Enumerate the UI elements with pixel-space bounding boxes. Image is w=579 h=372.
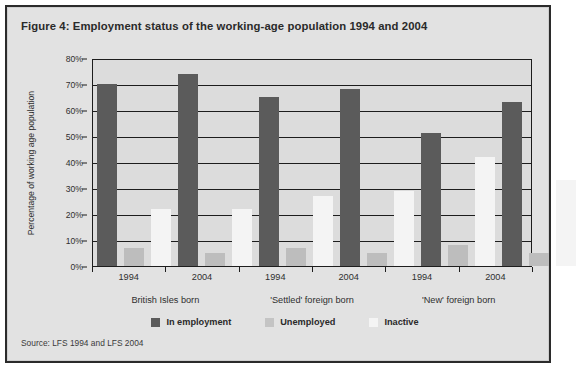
x-axis-year-label: 1994 [239,272,312,282]
y-axis-tick-mark [82,59,87,60]
year-label-pair: 19942004 [239,272,386,282]
y-axis-tick-mark [82,137,87,138]
x-axis-group-label: British Isles born [92,295,239,305]
bar-unemploy [448,245,468,266]
y-axis-tick-mark [82,215,87,216]
legend-item: Inactive [369,317,418,327]
y-axis-title: Percentage of working age population [26,59,40,267]
legend-item: In employment [151,317,231,327]
y-axis-tick-mark [82,241,87,242]
year-label-pair: 19942004 [385,272,532,282]
legend-label: Inactive [384,317,418,327]
x-axis-group-labels: British Isles born'Settled' foreign born… [92,295,532,305]
bar-chart: Percentage of working age population 0%1… [35,59,535,327]
bar-inactive [556,180,576,266]
bar-unemploy [286,248,306,266]
y-axis-tick-labels: 0%10%20%30%40%50%60%70%80% [49,59,87,267]
bar-inactive [313,196,333,266]
legend-swatch-icon [265,318,274,327]
bar-inactive [232,209,252,266]
y-axis-tick-label: 80% [66,54,83,64]
chart-legend: In employmentUnemployedInactive [35,317,535,327]
bar-group [336,60,417,266]
year-label-pair: 19942004 [92,272,239,282]
bar-employ [421,133,441,266]
legend-label: In employment [166,317,231,327]
x-axis-year-label: 1994 [92,272,165,282]
y-axis-tick-label: 20% [66,210,83,220]
x-axis-year-label: 2004 [165,272,238,282]
figure-panel: Figure 4: Employment status of the worki… [5,5,551,363]
x-axis-group-label: 'New' foreign born [385,295,532,305]
y-axis-tick-label: 60% [66,106,83,116]
y-axis-tick-mark [82,111,87,112]
bar-employ [178,74,198,266]
y-axis-tick-label: 70% [66,80,83,90]
x-axis-group-label: 'Settled' foreign born [239,295,386,305]
bar-unemploy [124,248,144,266]
bar-group [417,60,498,266]
x-axis-year-labels: 199420041994200419942004 [92,272,532,282]
y-axis-tick-mark [82,163,87,164]
bar-employ [259,97,279,266]
bar-inactive [151,209,171,266]
bar-inactive [394,191,414,266]
y-axis-tick-mark [82,85,87,86]
x-axis-year-label: 2004 [312,272,385,282]
legend-swatch-icon [151,318,160,327]
x-axis-tick-mark [532,267,533,272]
y-axis-tick-label: 40% [66,158,83,168]
bar-employ [97,84,117,266]
bar-group [93,60,174,266]
bar-inactive [475,157,495,266]
legend-swatch-icon [369,318,378,327]
figure-title: Figure 4: Employment status of the worki… [21,20,427,32]
y-axis-tick-mark [82,189,87,190]
y-axis-tick-label: 50% [66,132,83,142]
source-note: Source: LFS 1994 and LFS 2004 [21,338,143,348]
bar-unemploy [205,253,225,266]
bar-unemploy [529,253,549,266]
bar-group [174,60,255,266]
y-axis-tick-mark [82,267,87,268]
legend-label: Unemployed [280,317,335,327]
bar-employ [340,89,360,266]
bar-group [255,60,336,266]
bar-groups [93,60,531,266]
bar-unemploy [367,253,387,266]
y-axis-tick-label: 30% [66,184,83,194]
legend-item: Unemployed [265,317,335,327]
plot-area [92,59,532,267]
bar-employ [502,102,522,266]
y-axis-tick-label: 10% [66,236,83,246]
bar-group [498,60,579,266]
x-axis-year-label: 2004 [459,272,532,282]
x-axis-year-label: 1994 [385,272,458,282]
